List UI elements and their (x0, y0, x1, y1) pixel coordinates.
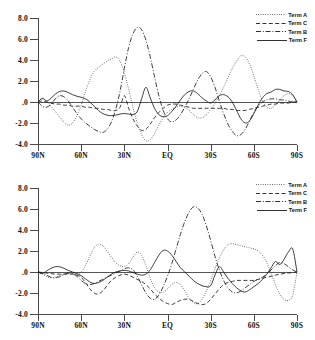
y-axis-tick (30, 144, 38, 145)
legend-swatch (256, 190, 286, 197)
y-axis-tick-label: -4.0 (0, 140, 28, 149)
legend-top: Term ATerm CTerm BTerm F (245, 11, 307, 45)
legend-swatch (257, 37, 287, 44)
x-axis-tick-label: 90S (282, 151, 312, 160)
legend-item: Term A (245, 181, 307, 188)
x-axis-tick-label: 30N (109, 151, 139, 160)
x-axis-tick-label: EQ (153, 151, 183, 160)
y-axis-tick (30, 314, 38, 315)
y-axis-tick-label: 8.0 (0, 184, 28, 193)
y-axis-tick (30, 102, 38, 103)
x-axis-tick-label: 30S (196, 151, 226, 160)
y-axis-tick (30, 39, 38, 40)
y-axis-tick (30, 60, 38, 61)
x-axis-tick-label: 60S (239, 321, 269, 330)
y-axis-tick (30, 188, 38, 189)
legend-swatch (256, 11, 286, 18)
series-line-term-f (38, 248, 297, 292)
y-axis-tick (30, 18, 38, 19)
legend-label: Term F (289, 207, 307, 213)
x-axis-tick-label: 60N (66, 151, 96, 160)
y-axis-tick-label: 2.0 (0, 247, 28, 256)
x-axis-tick-label: 90N (23, 151, 53, 160)
legend-label: Term A (288, 12, 307, 18)
y-axis-tick-label: 2.0 (0, 77, 28, 86)
legend-item: Term B (245, 198, 307, 205)
series-line-term-a (38, 55, 297, 141)
x-axis-tick-label: 90S (282, 321, 312, 330)
legend-swatch (257, 207, 287, 214)
x-axis-tick-label: 30N (109, 321, 139, 330)
x-axis-tick-label: 60S (239, 151, 269, 160)
y-axis-tick (30, 272, 38, 273)
legend-swatch (256, 28, 286, 35)
series-line-term-c (38, 96, 297, 131)
y-axis-tick (30, 209, 38, 210)
legend-item: Term F (245, 37, 307, 44)
legend-label: Term B (288, 199, 307, 205)
y-axis-tick (30, 251, 38, 252)
legend-swatch (256, 181, 286, 188)
y-axis-tick (30, 230, 38, 231)
x-axis-tick-label: EQ (153, 321, 183, 330)
legend-item: Term A (245, 11, 307, 18)
series-line-term-b (38, 207, 297, 300)
legend-swatch (256, 198, 286, 205)
y-axis-tick-label: 6.0 (0, 205, 28, 214)
y-axis-tick (30, 123, 38, 124)
legend-label: Term B (288, 29, 307, 35)
y-axis-tick-label: -4.0 (0, 310, 28, 319)
y-axis-tick-label: -2.0 (0, 119, 28, 128)
chart-panel-top: Term ATerm CTerm BTerm F 8.06.04.02.0.0-… (0, 0, 315, 170)
y-axis-tick-label: 4.0 (0, 226, 28, 235)
legend-item: Term C (245, 190, 307, 197)
y-axis-tick-label: 6.0 (0, 35, 28, 44)
legend-bottom: Term ATerm CTerm BTerm F (245, 181, 307, 215)
y-axis-tick-label: -2.0 (0, 289, 28, 298)
x-axis-tick-label: 90N (23, 321, 53, 330)
y-axis-tick-label: .0 (0, 98, 28, 107)
y-axis-tick-label: 4.0 (0, 56, 28, 65)
legend-swatch (256, 20, 286, 27)
legend-label: Term C (288, 190, 307, 196)
legend-label: Term C (288, 20, 307, 26)
legend-label: Term A (288, 182, 307, 188)
y-axis-tick-label: 8.0 (0, 14, 28, 23)
y-axis-tick (30, 81, 38, 82)
legend-item: Term B (245, 28, 307, 35)
chart-panel-bottom: Term ATerm CTerm BTerm F 8.06.04.02.0.0-… (0, 170, 315, 340)
y-axis-tick (30, 293, 38, 294)
x-axis-tick-label: 30S (196, 321, 226, 330)
y-axis-tick-label: .0 (0, 268, 28, 277)
legend-label: Term F (289, 37, 307, 43)
legend-item: Term F (245, 207, 307, 214)
legend-item: Term C (245, 20, 307, 27)
x-axis-tick-label: 60N (66, 321, 96, 330)
